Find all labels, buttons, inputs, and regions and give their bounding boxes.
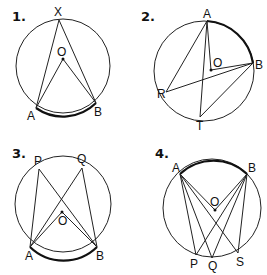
point-label-r: R <box>157 87 166 101</box>
diagram-number: 3. <box>12 146 26 161</box>
circle <box>15 156 111 252</box>
point-label-b: B <box>248 161 256 175</box>
diagram-1: 1. X O A B <box>12 5 110 123</box>
point-label-b: B <box>255 58 263 72</box>
point-label-b: B <box>94 105 102 119</box>
point-label-q: Q <box>77 152 86 166</box>
chord-pb <box>39 169 97 247</box>
point-label-b: B <box>96 249 104 263</box>
chord-ap <box>180 174 196 255</box>
point-label-a: A <box>25 249 33 263</box>
radius-oa <box>36 59 63 108</box>
diagram-number: 1. <box>12 9 26 24</box>
radius-oa <box>207 21 211 70</box>
diagram-number: 2. <box>141 9 155 24</box>
chord-aq <box>180 174 212 258</box>
diagram-2: 2. A O B R T <box>141 7 263 133</box>
minor-arc-ab <box>30 247 97 261</box>
inscribed-angles-figure: 1. X O A B 2. A O B R T 3. <box>0 0 267 275</box>
point-label-t: T <box>196 119 204 133</box>
point-label-o: O <box>210 195 219 209</box>
diagram-number: 4. <box>155 146 169 161</box>
point-label-s: S <box>236 255 244 269</box>
point-label-a: A <box>172 161 180 175</box>
point-label-a: A <box>27 109 35 123</box>
minor-arc-ab <box>180 161 247 174</box>
point-label-p: P <box>190 257 198 271</box>
circle <box>16 19 110 113</box>
chord-at <box>200 21 207 117</box>
point-label-x: X <box>54 5 62 19</box>
point-label-a: A <box>203 7 211 21</box>
diagram-3: 3. P Q O A B <box>12 146 111 263</box>
point-label-o: O <box>58 214 67 228</box>
chord-ar <box>166 21 207 92</box>
point-label-p: P <box>34 154 42 168</box>
diagram-4: 4. A B O P Q S <box>155 146 261 273</box>
chord-qb <box>82 168 97 247</box>
chord-xa <box>36 20 59 108</box>
point-label-q: Q <box>208 259 217 273</box>
chord-as <box>180 174 238 253</box>
chord-tb <box>200 63 253 117</box>
point-label-o: O <box>213 56 222 70</box>
point-label-o: O <box>57 45 66 59</box>
radius-ob <box>215 174 247 210</box>
chord-rb <box>166 63 253 92</box>
